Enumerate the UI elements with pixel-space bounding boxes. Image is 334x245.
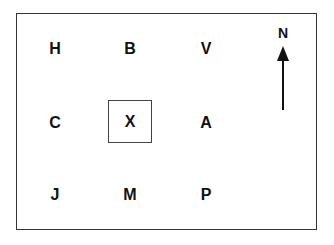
grid-letter-b: B [124,41,136,57]
grid-letter-h: H [49,41,61,57]
north-arrow-icon [273,44,293,112]
grid-letter-c: C [49,115,61,131]
grid-letter-p: P [201,187,212,203]
north-label: N [278,26,288,40]
grid-letter-m: M [123,187,136,203]
grid-letter-x: X [125,114,136,130]
grid-letter-a: A [200,115,212,131]
grid-letter-v: V [201,41,212,57]
grid-letter-j: J [51,187,60,203]
